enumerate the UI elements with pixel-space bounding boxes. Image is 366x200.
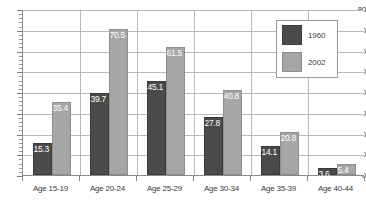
bar-value-label: 15.3 xyxy=(34,145,51,154)
x-group-tick xyxy=(364,176,365,181)
bar-1960-age-25-29[interactable] xyxy=(147,81,166,175)
bar-2002-age-20-24[interactable] xyxy=(109,29,128,175)
bar-value-label: 14.1 xyxy=(262,148,279,157)
bar-value-label: 40.8 xyxy=(224,92,241,101)
x-category-label: Age 30-34 xyxy=(193,184,250,193)
bar-value-label: 3.6 xyxy=(319,170,336,179)
x-group-tick xyxy=(307,176,308,181)
bar-value-label: 20.8 xyxy=(281,134,298,143)
bar-2002-age-25-29[interactable] xyxy=(166,47,185,175)
chart-title-remnant xyxy=(120,0,320,3)
bar-value-label: 5.4 xyxy=(338,166,355,175)
bar-chart: 01020304050607080 15.339.745.127.814.13.… xyxy=(0,0,366,200)
x-group-tick xyxy=(79,176,80,181)
legend-label-1960: 1960 xyxy=(308,31,325,40)
bar-2002-age-15-19[interactable] xyxy=(52,102,71,175)
legend-label-2002: 2002 xyxy=(308,58,325,67)
bar-2002-age-30-34[interactable] xyxy=(223,90,242,175)
gridline-vertical xyxy=(137,10,138,175)
gridline-vertical xyxy=(251,10,252,175)
bar-value-label: 35.4 xyxy=(53,104,70,113)
x-category-label: Age 15-19 xyxy=(22,184,79,193)
legend-entry-2002[interactable]: 2002 xyxy=(282,52,336,74)
legend-swatch-1960-icon xyxy=(282,25,302,45)
bar-1960-age-20-24[interactable] xyxy=(90,93,109,175)
bar-value-label: 61.5 xyxy=(167,49,184,58)
gridline-vertical xyxy=(80,10,81,175)
x-category-label: Age 40-44 xyxy=(307,184,364,193)
legend-swatch-2002-icon xyxy=(282,52,302,72)
gridline-vertical xyxy=(194,10,195,175)
x-category-label: Age 20-24 xyxy=(79,184,136,193)
bar-value-label: 39.7 xyxy=(91,95,108,104)
x-group-tick xyxy=(250,176,251,181)
bar-value-label: 45.1 xyxy=(148,83,165,92)
x-category-label: Age 35-39 xyxy=(250,184,307,193)
x-group-tick xyxy=(22,176,23,181)
x-group-tick xyxy=(136,176,137,181)
legend: 1960 2002 xyxy=(276,20,338,78)
x-category-label: Age 25-29 xyxy=(136,184,193,193)
x-group-tick xyxy=(193,176,194,181)
bar-value-label: 27.8 xyxy=(205,119,222,128)
bar-value-label: 70.5 xyxy=(110,31,127,40)
legend-entry-1960[interactable]: 1960 xyxy=(282,25,336,47)
